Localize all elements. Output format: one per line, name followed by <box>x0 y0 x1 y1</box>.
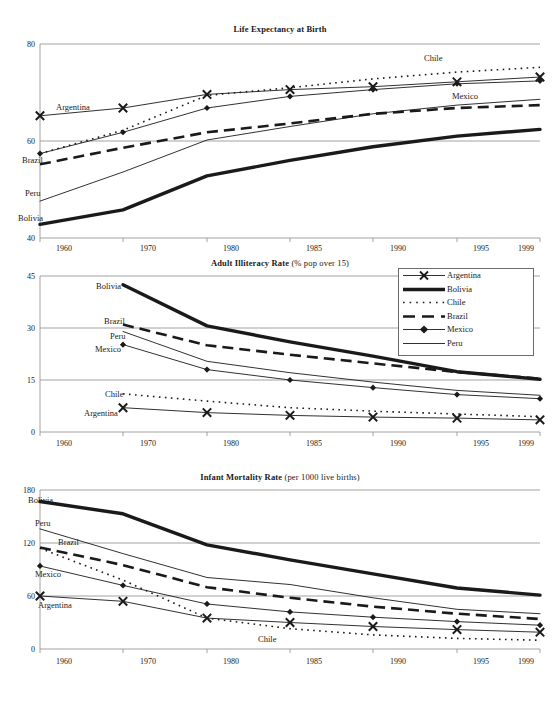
series-line-mexico <box>40 566 540 625</box>
inline-label-peru: Peru <box>25 188 41 198</box>
chart-2-xtick-1985: 1985 <box>306 439 322 448</box>
legend-sample-chile <box>402 296 446 309</box>
legend: Argentina Bolivia Chile Brazil <box>398 268 534 356</box>
chart-2-xtick-1990: 1990 <box>390 439 406 448</box>
panel-life-expectancy: Life Expectancy at Birth 80 60 40 <box>0 24 560 250</box>
chart-3-series-layer <box>36 502 544 641</box>
legend-sample-bolivia <box>402 283 446 296</box>
legend-item-brazil[interactable]: Brazil <box>399 310 533 324</box>
series-line-bolivia <box>40 502 540 596</box>
chart-3-xtick-1980: 1980 <box>223 657 239 666</box>
legend-sample-brazil <box>402 310 446 323</box>
chart-2-ytick-30: 30 <box>27 324 35 333</box>
inline-label-mexico: Mexico <box>452 91 478 101</box>
inline-label-bolivia: Bolivia <box>18 213 43 223</box>
chart-1-xtick-1990: 1990 <box>390 244 406 253</box>
chart-2-y-axis: 45 30 15 0 <box>27 272 40 437</box>
series-marker-mexico <box>370 614 376 620</box>
legend-item-argentina[interactable]: Argentina <box>399 269 533 283</box>
chart-1-ytick-40: 40 <box>27 234 35 243</box>
figure-root: Life Expectancy at Birth 80 60 40 <box>0 0 560 706</box>
chart-2-xtick-1970: 1970 <box>140 439 156 448</box>
chart-1-xtick-1970: 1970 <box>140 244 156 253</box>
legend-item-peru[interactable]: Peru <box>399 337 533 351</box>
chart-3-ytick-120: 120 <box>23 539 35 548</box>
inline-label-peru: Peru <box>35 518 51 528</box>
chart-3-x-axis: 1960 1970 1980 1985 1990 1995 1999 <box>40 649 540 666</box>
chart-2-xtick-1960: 1960 <box>56 439 72 448</box>
series-marker-mexico <box>537 396 543 402</box>
series-line-argentina <box>123 408 540 420</box>
inline-label-peru: Peru <box>110 331 126 341</box>
chart-1-inline-labels: Argentina Chile Mexico Brazil Peru Boliv… <box>18 53 478 223</box>
series-marker-mexico <box>454 619 460 625</box>
chart-1-ytick-60: 60 <box>27 137 35 146</box>
chart-2-ytick-15: 15 <box>27 376 35 385</box>
chart-1-xtick-1995: 1995 <box>473 244 489 253</box>
legend-item-mexico[interactable]: Mexico <box>399 323 533 337</box>
panel-1-title: Life Expectancy at Birth <box>0 24 560 34</box>
chart-2-xtick-1995: 1995 <box>473 439 489 448</box>
chart-1-svg: 80 60 40 1960 1970 1980 1985 <box>0 36 560 250</box>
series-marker-mexico <box>370 385 376 391</box>
chart-2-xtick-1999: 1999 <box>518 439 534 448</box>
chart-2-inline-labels: Bolivia Brazil Peru Mexico Chile Argenti… <box>84 281 126 418</box>
series-line-chile <box>123 394 540 417</box>
chart-3-xtick-1990: 1990 <box>390 657 406 666</box>
chart-3-xtick-1985: 1985 <box>306 657 322 666</box>
legend-label-argentina: Argentina <box>446 269 481 283</box>
series-marker-mexico <box>370 86 376 92</box>
inline-label-argentina: Argentina <box>38 600 72 610</box>
legend-sample-peru <box>402 337 446 350</box>
chart-1-xtick-1980: 1980 <box>223 244 239 253</box>
chart-3-ytick-60: 60 <box>27 592 35 601</box>
series-marker-mexico <box>287 377 293 383</box>
legend-sample-argentina <box>402 269 446 282</box>
chart-2-ytick-0: 0 <box>31 428 35 437</box>
chart-2-x-axis: 1960 1970 1980 1985 1990 1995 1999 <box>40 432 540 448</box>
chart-3-xtick-1999: 1999 <box>518 657 534 666</box>
chart-1-ytick-80: 80 <box>27 40 35 49</box>
chart-3-ytick-180: 180 <box>23 486 35 495</box>
chart-1-x-axis: 1960 1970 1980 1985 1990 1995 1999 <box>40 238 540 253</box>
legend-item-bolivia[interactable]: Bolivia <box>399 283 533 297</box>
legend-label-mexico: Mexico <box>446 323 473 337</box>
inline-label-brazil: Brazil <box>22 155 43 165</box>
chart-1-gridlines <box>40 44 540 238</box>
legend-item-chile[interactable]: Chile <box>399 296 533 310</box>
chart-1-xtick-1985: 1985 <box>306 244 322 253</box>
chart-3-svg: 180 120 60 0 1960 1970 1980 1985 <box>0 484 560 674</box>
series-marker-mexico <box>287 93 293 99</box>
panel-adult-illiteracy: Adult Illiteracy Rate (% pop over 15) 45… <box>0 258 560 448</box>
series-marker-mexico <box>537 622 543 628</box>
legend-sample-mexico <box>402 323 446 336</box>
series-line-bolivia <box>40 129 540 224</box>
panel-3-plot: 180 120 60 0 1960 1970 1980 1985 <box>0 484 560 674</box>
series-marker-mexico <box>287 609 293 615</box>
series-marker-mexico <box>204 367 210 373</box>
series-marker-mexico <box>120 582 126 588</box>
inline-label-chile: Chile <box>258 634 277 644</box>
series-marker-mexico <box>454 391 460 397</box>
inline-label-argentina: Argentina <box>56 102 90 112</box>
inline-label-bolivia: Bolivia <box>28 495 53 505</box>
chart-2-ytick-45: 45 <box>27 272 35 281</box>
inline-label-brazil: Brazil <box>58 537 79 547</box>
chart-3-xtick-1995: 1995 <box>473 657 489 666</box>
inline-label-bolivia: Bolivia <box>96 281 121 291</box>
series-marker-mexico <box>204 601 210 607</box>
panel-1-plot: 80 60 40 1960 1970 1980 1985 <box>0 36 560 250</box>
legend-label-brazil: Brazil <box>446 310 468 324</box>
chart-2-xtick-1980: 1980 <box>223 439 239 448</box>
chart-3-inline-labels: Bolivia Peru Brazil Mexico Argentina Chi… <box>28 495 277 644</box>
panel-infant-mortality: Infant Mortality Rate (per 1000 live bir… <box>0 472 560 672</box>
chart-3-ytick-0: 0 <box>31 645 35 654</box>
series-marker-mexico <box>204 105 210 111</box>
inline-label-chile: Chile <box>424 53 443 63</box>
legend-label-peru: Peru <box>446 337 463 351</box>
inline-label-mexico: Mexico <box>95 344 121 354</box>
chart-3-xtick-1970: 1970 <box>140 657 156 666</box>
panel-2-title: Adult Illiteracy Rate (% pop over 15) <box>0 258 560 268</box>
chart-1-xtick-1960: 1960 <box>56 244 72 253</box>
chart-1-xtick-1999: 1999 <box>518 244 534 253</box>
